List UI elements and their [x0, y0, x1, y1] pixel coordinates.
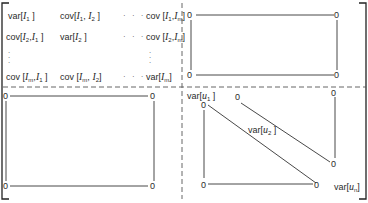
h-ellipsis: · · ·	[123, 11, 145, 20]
zero: 0	[3, 91, 8, 101]
zero: 0	[150, 181, 155, 191]
cell-cov-Im-I1: cov [Im,I1 ]	[6, 72, 48, 82]
cell-var-u2: var[u2 ]	[248, 125, 276, 135]
zero: 0	[187, 70, 192, 80]
cell-cov-Im-I2: cov [Im, I2]	[60, 72, 102, 82]
zero: 0	[235, 92, 240, 102]
h-ellipsis: · · ·	[123, 72, 145, 81]
cell-var-I1: var[I1 ]	[8, 11, 35, 21]
zero: 0	[187, 10, 192, 20]
right-bracket	[359, 3, 366, 199]
matrix-lines	[0, 0, 368, 203]
zero: 0	[331, 88, 336, 98]
cell-var-Im: var[Im]	[146, 72, 172, 82]
cell-var-I2: var[I2 ]	[60, 32, 87, 42]
zero: 0	[3, 181, 8, 191]
cell-cov-I1-I2: cov[I1, I2 ]	[60, 11, 100, 21]
h-ellipsis: · · ·	[123, 32, 145, 41]
cell-cov-I1-Im: cov [I1,Im]	[146, 11, 185, 21]
zero: 0	[201, 180, 206, 190]
cell-cov-I2-I1: cov[I2,I1 ]	[6, 32, 43, 42]
cell-var-un: var[un]	[334, 182, 360, 192]
zero: 0	[334, 10, 339, 20]
zero: 0	[331, 159, 336, 169]
cell-cov-I2-Im: cov [I2,Im]	[146, 32, 185, 42]
v-ellipsis: ···	[6, 50, 12, 65]
zero: 0	[334, 70, 339, 80]
v-ellipsis: ···	[147, 50, 153, 65]
zero: 0	[201, 100, 206, 110]
zero: 0	[150, 91, 155, 101]
zero: 0	[314, 180, 319, 190]
